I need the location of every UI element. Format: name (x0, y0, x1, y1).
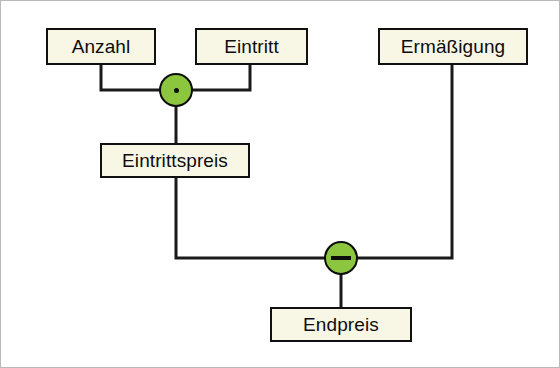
node-box-eintritt[interactable]: Eintritt (195, 28, 308, 65)
node-label-eintritt: Eintritt (224, 37, 279, 56)
node-label-ermaessigung: Ermäßigung (401, 37, 506, 56)
node-box-anzahl[interactable]: Anzahl (46, 28, 156, 65)
dataflow-diagram: Anzahl Eintritt Ermäßigung Eintrittsprei… (0, 0, 560, 368)
node-box-endpreis[interactable]: Endpreis (270, 307, 412, 342)
wire-anzahl-to-multiply (101, 65, 159, 90)
node-label-eintrittspreis: Eintrittspreis (122, 151, 228, 170)
wire-ermaessigung-to-subtract (358, 65, 452, 258)
minus-icon (331, 256, 351, 260)
multiply-operator-node[interactable] (159, 73, 193, 107)
wire-eintrittspreis-to-subtract (176, 178, 324, 258)
node-box-eintrittspreis[interactable]: Eintrittspreis (100, 143, 250, 178)
node-label-anzahl: Anzahl (72, 37, 131, 56)
node-box-ermaessigung[interactable]: Ermäßigung (378, 28, 528, 65)
wire-eintritt-to-multiply (193, 65, 250, 90)
node-label-endpreis: Endpreis (303, 315, 379, 334)
subtract-operator-node[interactable] (324, 241, 358, 275)
multiply-dot-icon (174, 88, 179, 93)
